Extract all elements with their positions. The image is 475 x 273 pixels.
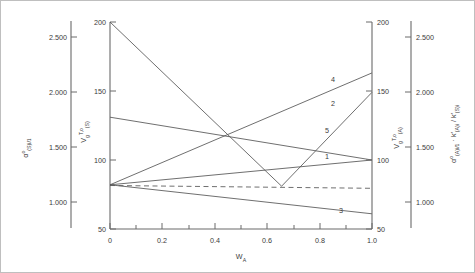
axis-alpha-S: 2.500 2.000 1.500 1.000 αo(S)i/1 (20, 21, 77, 228)
axis-Vg-A-ticklabel-1: 100 (377, 156, 389, 165)
x-axis-title: WA (236, 252, 247, 263)
curve-label-5: 5 (325, 126, 329, 135)
curve-label-4: 4 (331, 75, 335, 84)
curve-label-3: 3 (339, 206, 343, 215)
axis-Vg-S-ticklabel-1: 100 (94, 156, 106, 165)
axis-Vg-S: 200 150 100 50 VgT,o(S) (78, 18, 116, 234)
svg-text:αo(S)i/1: αo(S)i/1 (20, 138, 32, 158)
curve-series-1 (110, 160, 372, 185)
svg-text:VgT,o(S): VgT,o(S) (78, 121, 90, 143)
x-ticklabel-3: 0.6 (262, 236, 272, 245)
curve-series-3 (110, 185, 372, 214)
axis-alpha-S-title: αo(S)i/1 (20, 138, 32, 158)
axis-Vg-S-ticklabel-3: 200 (94, 18, 106, 27)
x-ticklabel-0: 0 (108, 236, 112, 245)
svg-text:VgT,o(A): VgT,o(A) (391, 127, 403, 149)
axis-Vg-A-title: VgT,o(A) (391, 127, 403, 149)
svg-text:αo(A)i/1 · k′(A)i / k′(S)i: αo(A)i/1 · k′(A)i / k′(S)i (448, 105, 460, 163)
axis-Vg-S-ticklabel-0: 50 (98, 225, 106, 234)
axis-Vg-S-title: VgT,o(S) (78, 121, 90, 143)
axis-Vg-A-ticklabel-0: 50 (377, 225, 385, 234)
x-ticklabel-4: 0.8 (315, 236, 325, 245)
x-ticklabel-2: 0.4 (210, 236, 220, 245)
figure-border (1, 1, 475, 273)
axis-Vg-A-ticklabel-2: 150 (377, 87, 389, 96)
curve-label-2: 2 (331, 99, 335, 108)
x-ticklabel-5: 1.0 (367, 236, 377, 245)
axis-alpha-S-ticklabel-3: 2.500 (49, 33, 67, 42)
curve-series-5 (110, 117, 372, 160)
axis-alpha-A-k-ticklabel-0: 1.000 (416, 198, 434, 207)
axis-Vg-S-ticklabel-2: 150 (94, 87, 106, 96)
axis-alpha-A-k-ticklabel-1: 1.500 (416, 143, 434, 152)
axis-Vg-A-ticklabel-3: 200 (377, 18, 389, 27)
axis-alpha-S-ticklabel-1: 1.500 (49, 143, 67, 152)
axis-Vg-A: 200 150 100 50 VgT,o(A) (366, 18, 403, 234)
curve-label-1: 1 (325, 152, 329, 161)
axis-alpha-S-ticklabel-0: 1.000 (49, 198, 67, 207)
figure-container: 2.500 2.000 1.500 1.000 αo(S)i/1 200 150… (0, 0, 475, 273)
plot-area: 0 0.2 0.4 0.6 0.8 1.0 WA 4 2 5 1 3 (108, 22, 377, 263)
axis-alpha-A-k: 2.500 2.000 1.500 1.000 αo(A)i/1 · k′(A)… (405, 21, 460, 228)
axis-alpha-S-ticklabel-2: 2.000 (49, 88, 67, 97)
axis-alpha-A-k-ticklabel-3: 2.500 (416, 33, 434, 42)
x-ticklabel-1: 0.2 (157, 236, 167, 245)
curve-series-4 (110, 73, 372, 185)
axis-alpha-A-k-title: αo(A)i/1 · k′(A)i / k′(S)i (448, 105, 460, 163)
axis-alpha-A-k-ticklabel-2: 2.000 (416, 88, 434, 97)
chart-svg: 2.500 2.000 1.500 1.000 αo(S)i/1 200 150… (0, 0, 475, 273)
curve-baseline-dashed (110, 186, 372, 189)
